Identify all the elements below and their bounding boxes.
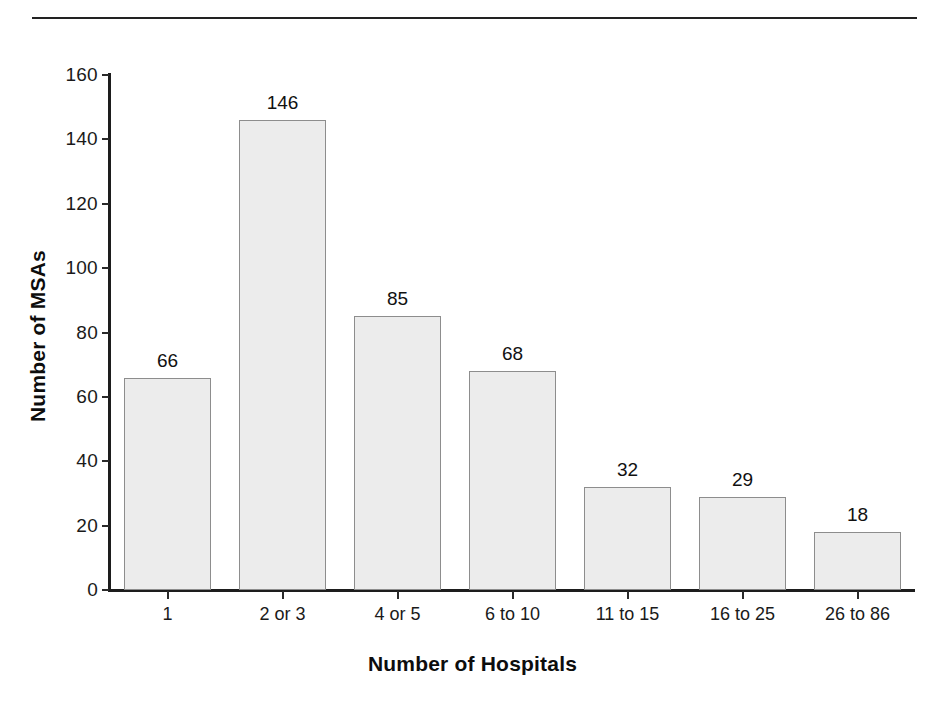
bar-value-label: 85 [387,288,408,310]
x-axis-tick-label: 1 [162,604,172,625]
x-axis-tick-label: 11 to 15 [596,604,660,625]
bar-value-label: 29 [732,469,753,491]
bar [814,532,902,590]
y-axis-tick-label: 0 [40,579,98,601]
y-axis-tick [102,203,109,205]
y-axis-title: Number of MSAs [26,216,50,456]
x-axis-title: Number of Hospitals [0,652,945,676]
top-horizontal-rule [32,17,917,19]
y-axis-tick [102,74,109,76]
bar [124,378,212,590]
x-axis-tick [857,591,859,599]
x-axis-tick [512,591,514,599]
x-axis-tick [282,591,284,599]
bar-value-label: 66 [157,350,178,372]
bar-value-label: 32 [617,459,638,481]
x-axis-tick [167,591,169,599]
bar-value-label: 68 [502,343,523,365]
bar [699,497,787,590]
x-axis-tick-label: 4 or 5 [374,604,420,625]
bar [469,371,557,590]
y-axis-tick [102,396,109,398]
x-axis-tick-label: 6 to 10 [485,604,540,625]
y-axis-tick [102,332,109,334]
x-axis-tick [742,591,744,599]
y-axis-tick-label: 120 [40,193,98,215]
bar [239,120,327,590]
x-axis-tick-label: 16 to 25 [710,604,775,625]
y-axis-tick [102,267,109,269]
bar [354,316,442,590]
y-axis-tick [102,525,109,527]
y-axis-tick [102,589,109,591]
y-axis-tick-label: 160 [40,64,98,86]
y-axis-tick-label: 140 [40,128,98,150]
y-axis-tick [102,138,109,140]
y-axis-tick-label: 20 [40,515,98,537]
bar [584,487,672,590]
x-axis-tick [627,591,629,599]
x-axis-tick [397,591,399,599]
bar-value-label: 18 [847,504,868,526]
x-axis-tick-label: 26 to 86 [825,604,890,625]
x-axis-tick-label: 2 or 3 [259,604,305,625]
y-axis-tick [102,460,109,462]
bar-chart-figure: 020406080100120140160 661468568322918 12… [0,0,945,704]
bar-value-label: 146 [267,92,299,114]
